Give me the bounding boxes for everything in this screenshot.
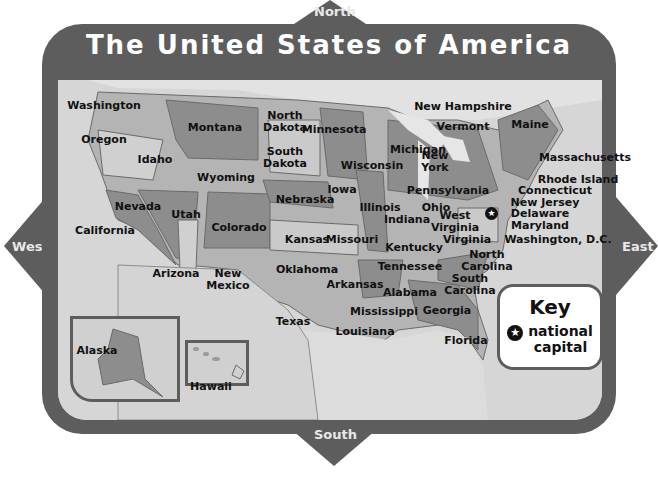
state-label-montana: Montana <box>188 122 242 134</box>
state-label-georgia: Georgia <box>423 305 472 317</box>
state-label-minnesota: Minnesota <box>302 124 367 136</box>
state-label-north-dakota: NorthDakota <box>263 110 307 134</box>
north-label: North <box>314 4 356 19</box>
state-label-nebraska: Nebraska <box>276 194 335 206</box>
state-label-kentucky: Kentucky <box>385 242 443 254</box>
state-label-washington: Washington <box>67 100 141 112</box>
state-label-virginia: Virginia <box>443 234 491 246</box>
state-label-alaska: Alaska <box>77 345 118 357</box>
alaska-inset <box>70 316 180 402</box>
state-label-new-mexico: NewMexico <box>206 268 249 292</box>
state-label-west-virginia: WestVirginia <box>431 210 479 234</box>
key-label-line2: capital <box>528 339 593 355</box>
state-label-arizona: Arizona <box>153 268 200 280</box>
state-label-utah: Utah <box>171 209 200 221</box>
state-label-pennsylvania: Pennsylvania <box>407 185 489 197</box>
state-label-arkansas: Arkansas <box>326 279 383 291</box>
star-in-circle-icon: ★ <box>507 325 523 341</box>
state-label-maine: Maine <box>511 119 548 131</box>
state-label-north-carolina: NorthCarolina <box>461 249 512 273</box>
state-label-alabama: Alabama <box>383 287 437 299</box>
state-label-texas: Texas <box>276 316 311 328</box>
state-label-south-dakota: SouthDakota <box>263 146 307 170</box>
national-capital-star-icon: ★ <box>485 207 498 220</box>
map-key: Key ★ national capital <box>497 284 603 370</box>
state-label-mississippi: Mississippi <box>350 306 418 318</box>
key-label-line1: national <box>528 323 593 339</box>
state-label-new-york: NewYork <box>421 150 448 174</box>
alaska-shape <box>73 319 177 399</box>
state-label-tennessee: Tennessee <box>378 261 443 273</box>
state-label-massachusetts: Massachusetts <box>539 152 631 164</box>
state-label-colorado: Colorado <box>211 222 266 234</box>
state-label-washington-d-c: Washington, D.C. <box>504 234 611 246</box>
state-label-oregon: Oregon <box>81 134 127 146</box>
state-label-maryland: Maryland <box>511 220 569 232</box>
state-label-nevada: Nevada <box>115 201 162 213</box>
south-label: South <box>314 427 357 442</box>
east-label: East <box>622 239 654 254</box>
hawaii-shape <box>188 343 246 383</box>
state-label-vermont: Vermont <box>437 121 490 133</box>
state-label-oklahoma: Oklahoma <box>276 264 338 276</box>
state-label-hawaii: Hawaii <box>190 381 232 393</box>
state-label-california: California <box>75 225 135 237</box>
state-label-wyoming: Wyoming <box>197 172 255 184</box>
key-title: Key <box>500 295 600 319</box>
key-entry-national-capital: ★ national capital <box>500 323 600 355</box>
state-label-missouri: Missouri <box>326 234 378 246</box>
state-label-florida: Florida <box>444 335 487 347</box>
state-label-kansas: Kansas <box>285 234 329 246</box>
state-label-new-hampshire: New Hampshire <box>414 101 512 113</box>
map-title: The United States of America <box>42 30 616 60</box>
state-label-indiana: Indiana <box>384 214 430 226</box>
state-label-south-carolina: SouthCarolina <box>444 273 495 297</box>
state-label-wisconsin: Wisconsin <box>341 160 404 172</box>
state-label-louisiana: Louisiana <box>335 326 394 338</box>
state-label-idaho: Idaho <box>138 154 173 166</box>
